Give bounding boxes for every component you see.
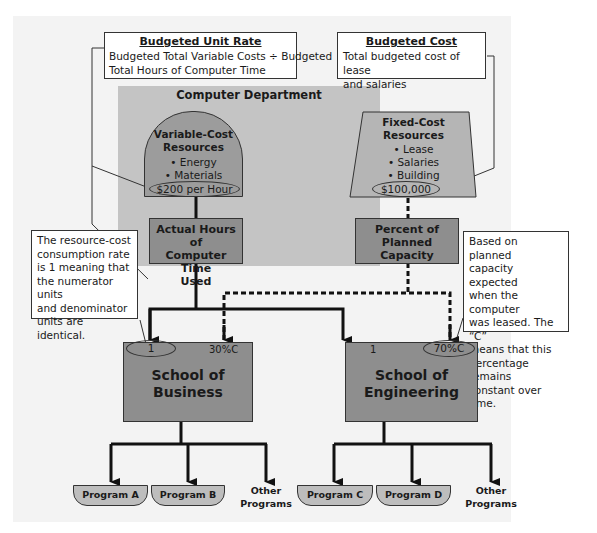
planned-line7: constant over time. bbox=[469, 384, 563, 411]
fixed-item-lease: • Lease bbox=[393, 143, 433, 156]
budgeted-unit-rate-callout: Budgeted Unit Rate Budgeted Total Variab… bbox=[104, 32, 297, 79]
actual-hours-line2: Computer Time bbox=[150, 249, 242, 275]
engineering-other-line1: Other bbox=[463, 484, 519, 497]
business-rate: 1 bbox=[148, 342, 155, 354]
engineering-rate: 1 bbox=[370, 344, 376, 355]
engineering-name-line2: Engineering bbox=[346, 384, 477, 401]
program-b: Program B bbox=[151, 485, 225, 506]
business-other-line1: Other bbox=[238, 484, 294, 497]
program-d: Program D bbox=[376, 485, 451, 506]
capacity-line3: Capacity bbox=[356, 249, 458, 262]
planned-line3: when the computer bbox=[469, 289, 563, 316]
variable-title1: Variable-Cost bbox=[145, 128, 242, 141]
engineering-capacity: 70%C bbox=[434, 342, 465, 354]
program-c: Program C bbox=[297, 485, 373, 506]
planned-capacity-callout: Based on planned capacity expected when … bbox=[463, 231, 569, 332]
variable-rate: $200 per Hour bbox=[156, 183, 232, 195]
capacity-line1: Percent of bbox=[356, 223, 458, 236]
actual-hours-line3: Used bbox=[150, 275, 242, 288]
actual-hours-line1: Actual Hours of bbox=[150, 223, 242, 249]
consumption-line6: units are identical. bbox=[37, 315, 132, 342]
capacity-line2: Planned bbox=[356, 236, 458, 249]
engineering-capacity-ellipse: 70%C bbox=[423, 340, 475, 357]
consumption-line4: the numerator units bbox=[37, 275, 132, 302]
budgeted-cost-line1: Total budgeted cost of lease bbox=[343, 49, 480, 77]
budgeted-cost-heading: Budgeted Cost bbox=[343, 35, 480, 49]
consumption-rate-callout: The resource-cost consumption rate is 1 … bbox=[31, 230, 138, 319]
rate-ellipse: $200 per Hour bbox=[149, 181, 240, 197]
engineering-name-line1: School of bbox=[346, 367, 477, 384]
program-a: Program A bbox=[73, 485, 148, 506]
program-d-label: Program D bbox=[385, 489, 442, 500]
budgeted-cost-callout: Budgeted Cost Total budgeted cost of lea… bbox=[337, 32, 486, 79]
consumption-line5: and denominator bbox=[37, 302, 132, 316]
planned-capacity-driver: Percent of Planned Capacity bbox=[355, 218, 459, 264]
engineering-other-line2: Programs bbox=[463, 497, 519, 510]
consumption-line1: The resource-cost bbox=[37, 234, 132, 248]
business-other-programs: Other Programs bbox=[238, 484, 294, 510]
business-name-line1: School of bbox=[124, 367, 252, 384]
planned-line5: means that this bbox=[469, 343, 563, 357]
fixed-title2: Resources bbox=[351, 129, 476, 142]
business-capacity: 30%C bbox=[209, 344, 238, 355]
unit-rate-line2: Total Hours of Computer Time bbox=[109, 63, 292, 77]
amount-ellipse: $100,000 bbox=[372, 181, 440, 197]
business-name-line2: Business bbox=[124, 384, 252, 401]
fixed-amount: $100,000 bbox=[381, 183, 431, 195]
planned-line6: percentage remains bbox=[469, 357, 563, 384]
fixed-title1: Fixed-Cost bbox=[351, 116, 476, 129]
program-b-label: Program B bbox=[160, 489, 217, 500]
planned-line1: Based on planned bbox=[469, 235, 563, 262]
fixed-item-salaries: • Salaries bbox=[388, 156, 439, 169]
consumption-line3: is 1 meaning that bbox=[37, 261, 132, 275]
variable-item-energy: • Energy bbox=[170, 156, 216, 169]
actual-hours-driver: Actual Hours of Computer Time Used bbox=[149, 218, 243, 264]
business-rate-ellipse: 1 bbox=[126, 340, 176, 357]
program-a-label: Program A bbox=[82, 489, 139, 500]
planned-line4: was leased. The “C” bbox=[469, 316, 563, 343]
unit-rate-heading: Budgeted Unit Rate bbox=[109, 35, 292, 49]
budgeted-cost-line2: and salaries bbox=[343, 77, 480, 91]
variable-title2: Resources bbox=[145, 141, 242, 154]
unit-rate-line1: Budgeted Total Variable Costs ÷ Budgeted bbox=[109, 49, 292, 63]
engineering-other-programs: Other Programs bbox=[463, 484, 519, 510]
consumption-line2: consumption rate bbox=[37, 248, 132, 262]
planned-line2: capacity expected bbox=[469, 262, 563, 289]
fixed-item-building: • Building bbox=[387, 169, 439, 182]
program-c-label: Program C bbox=[307, 489, 363, 500]
business-other-line2: Programs bbox=[238, 497, 294, 510]
